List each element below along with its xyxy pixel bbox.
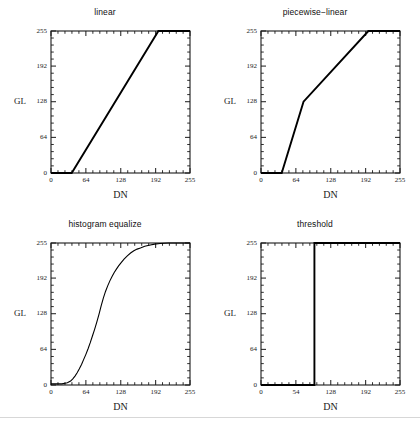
plot-panel-threshold: threshold 0 64 128 192 255 0 54 128 192 … — [210, 212, 420, 424]
x-axis-label: DN — [51, 189, 190, 200]
xtick-label: 192 — [352, 176, 380, 184]
xtick-label: 0 — [37, 176, 65, 184]
ytick-label: 255 — [0, 27, 47, 35]
xtick-label: 192 — [352, 388, 380, 396]
xtick-label: 255 — [176, 388, 204, 396]
ytick-label: 255 — [210, 27, 257, 35]
xtick-label: 64 — [72, 388, 100, 396]
xtick-label: 255 — [386, 388, 414, 396]
ytick-label: 64 — [210, 133, 257, 141]
xtick-label: 64 — [72, 176, 100, 184]
xtick-label: 192 — [142, 388, 170, 396]
y-axis-label: GL — [224, 308, 236, 318]
xtick-label: 64 — [282, 176, 310, 184]
xtick-label: 54 — [282, 388, 310, 396]
xtick-label: 128 — [317, 388, 345, 396]
ytick-label: 192 — [210, 274, 257, 282]
ytick-label: 255 — [210, 239, 257, 247]
xtick-label: 128 — [107, 388, 135, 396]
x-axis-label: DN — [51, 401, 190, 412]
ytick-label: 64 — [0, 345, 47, 353]
x-axis-label: DN — [261, 401, 400, 412]
xtick-label: 255 — [176, 176, 204, 184]
y-axis-label: GL — [14, 308, 26, 318]
y-axis-label: GL — [224, 96, 236, 106]
ytick-label: 192 — [0, 274, 47, 282]
xtick-label: 192 — [142, 176, 170, 184]
xtick-label: 128 — [317, 176, 345, 184]
figure-grid: linear 0 64 128 192 255 0 64 128 192 255… — [0, 0, 420, 424]
ytick-label: 192 — [0, 62, 47, 70]
footer-divider — [0, 417, 420, 418]
plot-panel-histogram-equalize: histogram equalize 0 64 128 192 255 0 64… — [0, 212, 210, 424]
plot-panel-piecewise-linear: piecewise−linear 0 64 128 192 255 0 64 1… — [210, 0, 420, 212]
ytick-label: 64 — [0, 133, 47, 141]
x-axis-label: DN — [261, 189, 400, 200]
xtick-label: 0 — [37, 388, 65, 396]
xtick-label: 128 — [107, 176, 135, 184]
ytick-label: 64 — [210, 345, 257, 353]
plot-panel-linear: linear 0 64 128 192 255 0 64 128 192 255… — [0, 0, 210, 212]
ytick-label: 192 — [210, 62, 257, 70]
xtick-label: 255 — [386, 176, 414, 184]
y-axis-label: GL — [14, 96, 26, 106]
xtick-label: 0 — [247, 176, 275, 184]
xtick-label: 0 — [247, 388, 275, 396]
ytick-label: 255 — [0, 239, 47, 247]
